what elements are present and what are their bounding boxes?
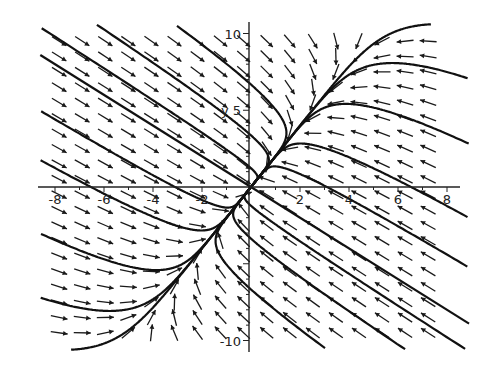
x-tick-label: 6 bbox=[394, 192, 402, 207]
field-arrow bbox=[214, 82, 227, 92]
direction-field-plot: -8-6-4-22468105-10 y bbox=[0, 0, 498, 374]
axes bbox=[38, 22, 460, 352]
field-arrow bbox=[189, 224, 206, 229]
y-tick-label: 5 bbox=[233, 103, 241, 118]
field-arrow bbox=[351, 115, 368, 120]
field-arrow bbox=[121, 222, 137, 229]
x-tick-label: 2 bbox=[296, 192, 304, 207]
field-arrow bbox=[166, 239, 183, 244]
field-arrow bbox=[213, 175, 228, 183]
field-arrow bbox=[306, 206, 321, 215]
field-arrow bbox=[168, 36, 182, 46]
field-arrow bbox=[98, 160, 113, 168]
field-arrow bbox=[420, 84, 436, 90]
field-arrow bbox=[74, 269, 90, 275]
field-arrow bbox=[193, 295, 201, 310]
field-arrow bbox=[375, 236, 390, 245]
field-arrow bbox=[374, 69, 391, 74]
field-arrow bbox=[286, 95, 294, 110]
field-arrow bbox=[352, 221, 367, 230]
field-arrow bbox=[282, 161, 298, 167]
field-arrow bbox=[143, 254, 160, 259]
field-arrow bbox=[375, 221, 390, 229]
field-arrow bbox=[52, 37, 66, 46]
field-arrow bbox=[52, 175, 67, 183]
field-arrow bbox=[97, 300, 114, 305]
field-arrow bbox=[283, 221, 297, 230]
x-tick-label: -8 bbox=[49, 192, 62, 207]
field-arrow bbox=[191, 113, 205, 123]
field-arrow bbox=[328, 175, 343, 183]
field-arrow bbox=[398, 267, 412, 276]
field-arrow bbox=[329, 251, 343, 260]
field-arrow bbox=[329, 206, 344, 214]
field-arrow bbox=[306, 236, 320, 245]
field-arrow bbox=[193, 310, 202, 324]
field-arrow bbox=[167, 160, 182, 169]
field-arrow bbox=[98, 52, 112, 61]
field-arrow bbox=[352, 297, 366, 306]
field-arrow bbox=[74, 316, 91, 321]
field-arrow bbox=[190, 144, 204, 153]
field-arrow bbox=[421, 267, 436, 276]
x-tick-label: -6 bbox=[98, 192, 111, 207]
field-arrow bbox=[305, 191, 320, 199]
field-arrow bbox=[375, 282, 389, 291]
field-arrow bbox=[191, 98, 205, 108]
field-arrow bbox=[167, 82, 181, 92]
field-arrow bbox=[397, 69, 414, 74]
field-arrow bbox=[327, 115, 344, 120]
field-arrow bbox=[306, 267, 320, 277]
field-arrow bbox=[190, 207, 206, 214]
field-arrow bbox=[398, 328, 412, 337]
field-arrow bbox=[329, 282, 343, 292]
field-arrow bbox=[260, 312, 273, 323]
field-arrow bbox=[213, 191, 229, 198]
field-arrow bbox=[144, 144, 159, 153]
field-arrow bbox=[172, 294, 177, 311]
field-arrow bbox=[149, 324, 154, 341]
field-arrow bbox=[352, 328, 366, 338]
field-arrow bbox=[120, 238, 136, 245]
field-arrow bbox=[284, 50, 295, 63]
field-arrow bbox=[306, 312, 320, 322]
field-arrow bbox=[374, 114, 390, 120]
field-arrow bbox=[374, 145, 390, 152]
field-arrow bbox=[374, 160, 389, 168]
field-arrow bbox=[311, 79, 316, 96]
field-arrow bbox=[260, 236, 273, 246]
field-arrow bbox=[352, 236, 367, 245]
field-arrow bbox=[355, 33, 362, 49]
field-arrow bbox=[167, 207, 183, 214]
field-arrow bbox=[74, 222, 90, 229]
field-arrow bbox=[261, 112, 272, 125]
field-arrow bbox=[238, 250, 250, 262]
x-tick-label: 8 bbox=[443, 192, 451, 207]
field-arrow bbox=[189, 237, 206, 242]
x-tick-label: 4 bbox=[345, 192, 353, 207]
field-arrow bbox=[98, 222, 114, 229]
field-arrow bbox=[214, 128, 228, 138]
field-arrow bbox=[98, 129, 113, 138]
field-arrow bbox=[167, 144, 182, 153]
field-arrow bbox=[52, 98, 67, 107]
field-arrow bbox=[190, 175, 205, 183]
field-arrow bbox=[97, 238, 113, 245]
field-arrow bbox=[98, 83, 112, 92]
field-arrow bbox=[237, 51, 250, 62]
field-arrow bbox=[121, 67, 135, 76]
solution-curve bbox=[252, 104, 469, 186]
field-arrow bbox=[397, 39, 414, 44]
field-arrow bbox=[421, 282, 435, 291]
field-arrow bbox=[216, 265, 226, 279]
field-arrow bbox=[237, 312, 249, 324]
field-arrow bbox=[75, 206, 90, 214]
field-arrow bbox=[351, 145, 367, 152]
field-arrow bbox=[144, 129, 158, 138]
field-arrow bbox=[74, 237, 90, 244]
field-arrow bbox=[304, 131, 321, 136]
field-arrow bbox=[143, 222, 159, 229]
field-arrow bbox=[398, 298, 412, 307]
field-arrow bbox=[195, 263, 200, 280]
field-arrow bbox=[120, 270, 137, 275]
